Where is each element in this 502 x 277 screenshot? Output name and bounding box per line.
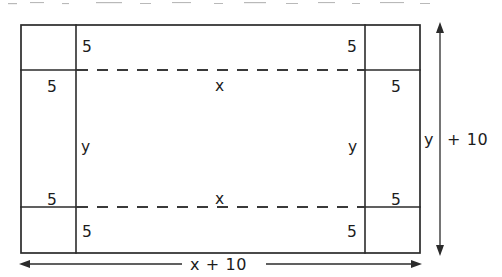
label-vertical-dimension-variable: y [424, 130, 434, 149]
label-five-top-left-inner: 5 [82, 38, 92, 56]
label-inner-right-height-y: y [348, 138, 357, 156]
horizontal-arrow-head-right [411, 260, 422, 268]
label-five-right-lower-outer: 5 [391, 191, 401, 209]
label-five-right-upper-outer: 5 [391, 78, 401, 96]
vertical-dimension-arrow [436, 22, 444, 256]
figure-root: 5 5 5 5 5 5 5 5 x x y y y + 10 x + 10 [0, 0, 502, 277]
label-vertical-dimension-remainder: + 10 [447, 130, 488, 149]
label-five-bottom-left-inner: 5 [82, 223, 92, 241]
label-five-left-upper-outer: 5 [47, 78, 57, 96]
horizontal-arrow-head-left [19, 260, 30, 268]
label-inner-left-height-y: y [81, 138, 90, 156]
label-inner-bottom-width-x: x [215, 190, 224, 208]
label-inner-top-width-x: x [215, 77, 224, 95]
label-five-left-lower-outer: 5 [47, 191, 57, 209]
vertical-arrow-head-bottom [436, 245, 444, 256]
label-five-bottom-right-inner: 5 [347, 223, 357, 241]
diagram-canvas: 5 5 5 5 5 5 5 5 x x y y y + 10 x + 10 [0, 0, 502, 277]
label-five-top-right-inner: 5 [347, 38, 357, 56]
scan-artifacts [8, 2, 430, 4]
label-horizontal-dimension: x + 10 [190, 255, 247, 274]
vertical-arrow-head-top [436, 22, 444, 33]
